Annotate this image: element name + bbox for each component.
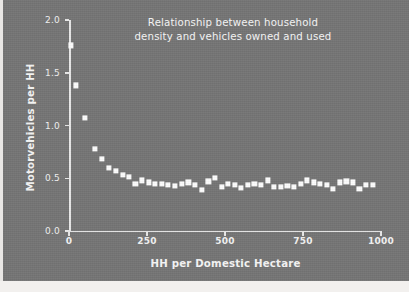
data-point-marker: [192, 182, 197, 187]
data-point-marker: [212, 176, 217, 181]
data-point-marker: [291, 184, 296, 189]
data-point-marker: [298, 181, 303, 186]
x-tick-label: 250: [122, 236, 172, 246]
chart-figure: Relationship between household density a…: [0, 0, 409, 292]
data-point-marker: [252, 181, 257, 186]
data-point-marker: [272, 184, 277, 189]
data-point-marker: [337, 180, 342, 185]
chart-panel: Relationship between household density a…: [3, 0, 409, 281]
data-point-marker: [232, 182, 237, 187]
data-point-marker: [146, 180, 151, 185]
data-point-marker: [304, 178, 309, 183]
data-point-marker: [278, 184, 283, 189]
data-point-marker: [172, 183, 177, 188]
data-point-marker: [265, 178, 270, 183]
data-point-marker: [113, 168, 118, 173]
data-point-marker: [239, 185, 244, 190]
data-point-marker: [226, 181, 231, 186]
data-point-marker: [106, 165, 111, 170]
data-point-marker: [350, 180, 355, 185]
data-point-marker: [363, 182, 368, 187]
data-point-marker: [139, 178, 144, 183]
data-point-marker: [186, 180, 191, 185]
data-point-marker: [133, 181, 138, 186]
data-point-marker: [127, 175, 132, 180]
data-point-marker: [324, 182, 329, 187]
data-point-marker: [357, 186, 362, 191]
data-point-marker: [179, 181, 184, 186]
data-point-marker: [285, 183, 290, 188]
data-point-marker: [120, 172, 125, 177]
data-point-marker: [166, 182, 171, 187]
data-point-marker: [331, 186, 336, 191]
data-point-marker: [245, 182, 250, 187]
x-tick-label: 0: [44, 236, 94, 246]
data-point-marker: [92, 146, 97, 151]
data-point-marker: [318, 181, 323, 186]
page-bottom-margin: [0, 281, 409, 292]
data-point-marker: [370, 182, 375, 187]
y-tick-label: 2.0: [20, 15, 60, 25]
x-tick-label: 750: [278, 236, 328, 246]
data-point-marker: [83, 116, 88, 121]
data-point-marker: [206, 179, 211, 184]
data-point-marker: [344, 179, 349, 184]
data-point-marker: [68, 43, 73, 48]
plot-area: [69, 20, 381, 231]
data-point-marker: [99, 157, 104, 162]
x-tick-label: 1000: [356, 236, 406, 246]
y-tick-label: 0.0: [20, 226, 60, 236]
data-point-marker: [73, 83, 78, 88]
data-point-marker: [311, 180, 316, 185]
x-tick-label: 500: [200, 236, 250, 246]
data-point-marker: [159, 181, 164, 186]
data-point-marker: [219, 184, 224, 189]
data-point-marker: [259, 182, 264, 187]
data-point-marker: [199, 187, 204, 192]
data-point-marker: [153, 181, 158, 186]
x-axis-title: HH per Domestic Hectare: [69, 258, 382, 269]
y-axis-title: Motorvehicles per HH: [25, 43, 36, 213]
